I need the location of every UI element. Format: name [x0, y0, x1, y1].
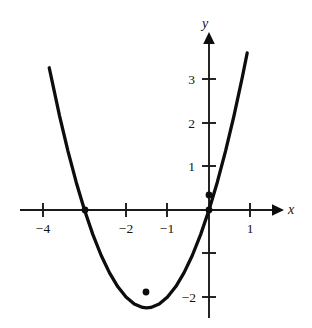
- marked-points: [82, 192, 213, 296]
- parabola-plot: x y −4 −2 −1 1: [0, 0, 312, 328]
- graph-figure: x y −4 −2 −1 1: [0, 0, 312, 328]
- parabola-curve: [49, 53, 247, 308]
- marked-point: [143, 289, 150, 296]
- y-tick-label-pos1: 1: [188, 159, 195, 174]
- y-tick-label-pos3: 3: [188, 72, 195, 87]
- x-tick-label-pos1: 1: [247, 221, 254, 236]
- marked-point: [206, 192, 213, 199]
- y-axis: y: [200, 16, 215, 318]
- x-axis-arrowhead: [272, 204, 284, 216]
- x-axis: x: [20, 202, 295, 217]
- marked-point: [206, 207, 213, 214]
- y-axis-label: y: [200, 16, 209, 31]
- x-tick-label-neg2: −2: [119, 221, 133, 236]
- y-tick-label-neg2: −2: [182, 290, 196, 305]
- x-tick-label-neg4: −4: [36, 221, 51, 236]
- y-tick-label-pos2: 2: [188, 116, 195, 131]
- y-axis-arrowhead: [203, 32, 215, 44]
- x-axis-label: x: [287, 202, 295, 217]
- x-tick-label-neg1: −1: [160, 221, 174, 236]
- marked-point: [82, 207, 89, 214]
- x-tick-labels: −4 −2 −1 1: [36, 221, 254, 236]
